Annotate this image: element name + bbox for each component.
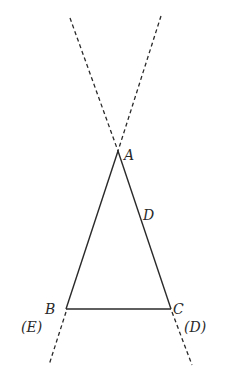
label-point-c: C bbox=[173, 301, 184, 317]
triangle-diagram: A D B C (E) (D) bbox=[0, 0, 229, 386]
line-d-extension-above-a bbox=[118, 16, 161, 151]
line-e-extension-above-a bbox=[70, 18, 118, 151]
label-point-d-on-ac: D bbox=[142, 207, 154, 223]
segment-ab bbox=[66, 151, 118, 309]
line-e-extension-below-b bbox=[49, 312, 66, 365]
label-point-a: A bbox=[122, 147, 134, 163]
label-line-e: (E) bbox=[21, 319, 42, 335]
segment-ac bbox=[118, 151, 171, 309]
label-line-d: (D) bbox=[184, 319, 206, 335]
label-point-b: B bbox=[44, 301, 55, 317]
